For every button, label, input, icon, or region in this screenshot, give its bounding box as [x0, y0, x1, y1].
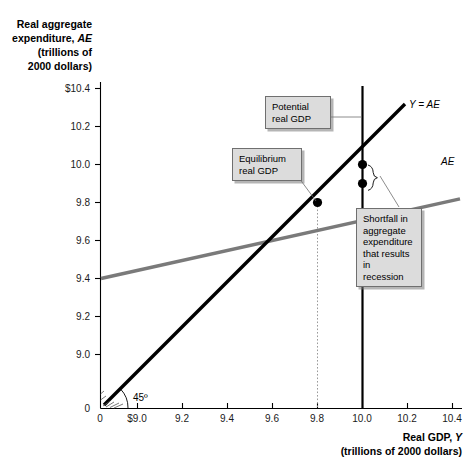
callout-equilibrium-line1: Equilibrium: [239, 153, 296, 165]
series-label-ae: AE: [440, 156, 455, 167]
callout-shortfall-line3: expenditure: [363, 236, 416, 248]
x-axis-title-line1-pre: Real GDP,: [403, 431, 455, 443]
y-tick-label-7: 9.0: [76, 349, 90, 360]
point-ae-at-potential: [358, 179, 367, 188]
x-tick-label-3: 9.4: [220, 413, 234, 424]
callout-shortfall-line4: that results in: [363, 248, 416, 271]
leader-shortfall: [380, 176, 399, 207]
callout-potential-real-gdp: Potential real GDP: [265, 96, 331, 129]
callout-shortfall-line1: Shortfall in: [363, 213, 416, 225]
x-axis-title-line1-italic: Y: [455, 431, 463, 443]
leader-equilibrium: [299, 178, 316, 201]
y-tick-label-6: 9.2: [76, 311, 90, 322]
y-axis-title-line2-italic: AE: [76, 32, 93, 44]
x-tick-label-8: 10.4: [442, 413, 462, 424]
x-axis-tick-labels: 0 $9.0 9.2 9.4 9.6 9.8 10.0 10.2 10.4: [97, 413, 462, 424]
callout-shortfall: Shortfall in aggregate expenditure that …: [356, 208, 422, 287]
y-axis-title-line2: expenditure, AE: [12, 32, 93, 44]
x-tick-label-7: 10.2: [397, 413, 417, 424]
callout-potential-line1: Potential: [272, 101, 325, 113]
y-axis-title-line2-pre: expenditure,: [12, 32, 77, 44]
y-axis-title-line4: 2000 dollars): [28, 60, 92, 72]
callout-shortfall-line5: recession: [363, 271, 416, 283]
y-tick-label-5: 9.4: [76, 273, 90, 284]
x-tick-label-5: 9.8: [310, 413, 324, 424]
y-tick-label-4: 9.6: [76, 235, 90, 246]
y-axis-tick-labels: $10.4 10.2 10.0 9.8 9.6 9.4 9.2 9.0 0: [65, 83, 90, 414]
y-tick-label-2: 10.0: [71, 159, 91, 170]
y-axis-title-line1: Real aggregate: [17, 18, 92, 30]
point-potential-on-45-line: [358, 160, 367, 169]
y-axis-title-line3: (trillions of: [38, 46, 93, 58]
x-axis-title-line2: (trillions of 2000 dollars): [341, 445, 462, 457]
aggregate-expenditure-chart: Real aggregate expenditure, AE (trillion…: [0, 0, 475, 470]
callout-shortfall-line2: aggregate: [363, 225, 416, 237]
y-tick-label-3: 9.8: [76, 197, 90, 208]
y-tick-label-1: 10.2: [71, 121, 91, 132]
series-label-y-equals-ae: Y = AE: [409, 99, 440, 110]
x-axis-title-line1: Real GDP, Y: [403, 431, 463, 443]
x-tick-label-6: 10.0: [352, 413, 372, 424]
y-axis-ticks: [95, 89, 101, 355]
x-axis-ticks: [138, 403, 453, 409]
callout-potential-line2: real GDP: [272, 113, 325, 125]
y-tick-label-0: $10.4: [65, 83, 90, 94]
x-tick-label-1: $9.0: [127, 413, 147, 424]
x-tick-label-0: 0: [97, 413, 103, 424]
angle-hatch-5: [101, 396, 107, 400]
angle-45-label: 45º: [133, 392, 148, 403]
callout-equilibrium-real-gdp: Equilibrium real GDP: [232, 148, 302, 181]
x-tick-label-2: 9.2: [175, 413, 189, 424]
shortfall-brace: [368, 165, 377, 190]
callout-equilibrium-line2: real GDP: [239, 165, 296, 177]
y-tick-label-8: 0: [84, 403, 90, 414]
angle-arc-45: [121, 389, 129, 408]
x-tick-label-4: 9.6: [265, 413, 279, 424]
